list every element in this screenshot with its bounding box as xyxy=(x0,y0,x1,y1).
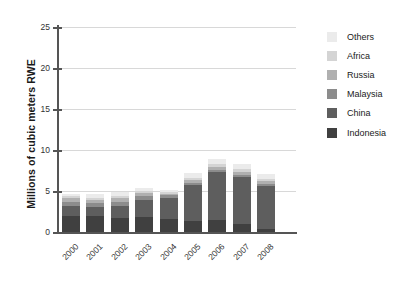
legend-swatch-africa xyxy=(327,51,337,61)
legend-label-malaysia: Malaysia xyxy=(347,89,383,99)
y-tick-20 xyxy=(53,68,62,70)
y-tick-label-10: 10 xyxy=(24,145,50,155)
plot-area xyxy=(58,27,296,232)
bar-segment-indonesia-2003 xyxy=(135,217,153,232)
bar-2002[interactable] xyxy=(111,192,129,232)
bar-segment-china-2008 xyxy=(257,186,275,229)
legend-label-indonesia: Indonesia xyxy=(347,128,386,138)
bar-2006[interactable] xyxy=(208,159,226,232)
bar-2003[interactable] xyxy=(135,188,153,232)
bar-2005[interactable] xyxy=(184,173,202,232)
gridline-20 xyxy=(58,68,296,69)
bar-segment-indonesia-2008 xyxy=(257,229,275,232)
legend-item-china[interactable]: China xyxy=(327,104,386,123)
y-tick-25 xyxy=(53,27,62,29)
y-tick-15 xyxy=(53,109,62,111)
bar-2008[interactable] xyxy=(257,174,275,232)
bar-segment-china-2004 xyxy=(160,198,178,219)
legend-swatch-indonesia xyxy=(327,128,337,138)
bar-segment-indonesia-2001 xyxy=(86,216,104,232)
bar-2000[interactable] xyxy=(62,194,80,232)
bar-segment-china-2003 xyxy=(135,200,153,217)
bar-2007[interactable] xyxy=(233,164,251,232)
bar-segment-indonesia-2007 xyxy=(233,224,251,232)
bar-2001[interactable] xyxy=(86,194,104,232)
bar-segment-china-2005 xyxy=(184,185,202,220)
legend-label-china: China xyxy=(347,108,371,118)
y-axis-title: Millions of cubic meters RWE xyxy=(25,29,37,239)
y-tick-5 xyxy=(53,191,62,193)
legend-label-others: Others xyxy=(347,32,374,42)
y-tick-0 xyxy=(53,232,62,234)
y-tick-label-15: 15 xyxy=(24,104,50,114)
legend-item-russia[interactable]: Russia xyxy=(327,65,386,84)
bar-segment-china-2002 xyxy=(111,206,129,218)
bar-segment-china-2006 xyxy=(208,172,226,220)
legend-item-others[interactable]: Others xyxy=(327,27,386,46)
gridline-25 xyxy=(58,27,296,28)
legend-swatch-china xyxy=(327,108,337,118)
legend-swatch-russia xyxy=(327,70,337,80)
bar-segment-china-2007 xyxy=(233,177,251,224)
bar-segment-indonesia-2006 xyxy=(208,220,226,232)
bar-segment-indonesia-2004 xyxy=(160,219,178,232)
x-axis-line xyxy=(57,232,297,234)
legend-swatch-others xyxy=(327,32,337,42)
legend-label-russia: Russia xyxy=(347,70,375,80)
gridline-10 xyxy=(58,150,296,151)
chart-legend: OthersAfricaRussiaMalaysiaChinaIndonesia xyxy=(327,27,386,142)
gridline-15 xyxy=(58,109,296,110)
legend-label-africa: Africa xyxy=(347,51,370,61)
bar-segment-indonesia-2000 xyxy=(62,216,80,232)
y-tick-label-0: 0 xyxy=(24,227,50,237)
bar-segment-china-2001 xyxy=(86,207,104,216)
y-tick-10 xyxy=(53,150,62,152)
y-tick-label-5: 5 xyxy=(24,186,50,196)
bar-segment-china-2000 xyxy=(62,206,80,216)
chart-figure: Millions of cubic meters RWE 0510152025 … xyxy=(0,0,402,286)
legend-swatch-malaysia xyxy=(327,89,337,99)
legend-item-indonesia[interactable]: Indonesia xyxy=(327,123,386,142)
bar-2004[interactable] xyxy=(160,190,178,232)
y-tick-label-20: 20 xyxy=(24,63,50,73)
bar-segment-indonesia-2002 xyxy=(111,218,129,232)
bar-segment-indonesia-2005 xyxy=(184,221,202,232)
legend-item-africa[interactable]: Africa xyxy=(327,46,386,65)
y-tick-label-25: 25 xyxy=(24,22,50,32)
legend-item-malaysia[interactable]: Malaysia xyxy=(327,85,386,104)
